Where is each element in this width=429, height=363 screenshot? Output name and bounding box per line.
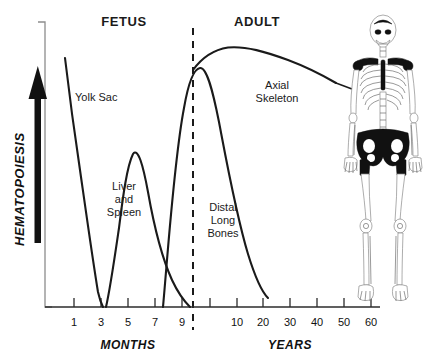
adult-skeleton-diagram [344, 15, 422, 301]
tick-label-month-7: 7 [152, 316, 158, 328]
tick-label-month-1: 1 [71, 316, 77, 328]
curve-label-axial-line-2: Skeleton [256, 92, 299, 104]
tick-label-year-30: 30 [284, 316, 296, 328]
x-axis-ticks-years [210, 298, 371, 307]
period-header-adult: ADULT [234, 14, 280, 29]
axial-skeleton-leader-line [336, 83, 352, 89]
curve-label-distal-line-1: Distal [209, 201, 237, 213]
tick-label-year-10: 10 [231, 316, 243, 328]
curve-label-liver-and-spleen: Liver and Spleen [107, 180, 141, 218]
tick-label-year-60: 60 [365, 316, 377, 328]
curve-label-distal-line-2: Long [211, 214, 235, 226]
tick-label-month-5: 5 [125, 316, 131, 328]
curve-label-distal-long-bones: Distal Long Bones [207, 201, 239, 239]
hematopoiesis-figure: FETUS ADULT HEMATOPOIESIS 1 3 5 7 9 MONT… [0, 0, 429, 363]
curve-label-axial-line-1: Axial [265, 79, 289, 91]
curve-liver-and-spleen [106, 152, 190, 307]
tick-label-month-3: 3 [98, 316, 104, 328]
curve-label-axial-skeleton: Axial Skeleton [256, 79, 299, 104]
chart-canvas: FETUS ADULT HEMATOPOIESIS 1 3 5 7 9 MONT… [0, 0, 429, 363]
curve-label-liver-line-2: and [115, 193, 133, 205]
curve-label-yolk-sac: Yolk Sac [75, 91, 118, 103]
x-axis-group-label-months: MONTHS [101, 338, 156, 352]
curve-label-distal-line-3: Bones [207, 227, 239, 239]
tick-label-year-40: 40 [311, 316, 323, 328]
tick-label-year-50: 50 [338, 316, 350, 328]
tick-label-year-20: 20 [257, 316, 269, 328]
y-axis-title: HEMATOPOIESIS [12, 132, 27, 246]
curve-label-liver-line-3: Spleen [107, 206, 141, 218]
curve-distal-long-bones [163, 68, 268, 307]
period-header-fetus: FETUS [101, 14, 147, 29]
x-axis-group-label-years: YEARS [268, 338, 312, 352]
curve-axial-skeleton [193, 47, 336, 83]
curve-label-liver-line-1: Liver [112, 180, 136, 192]
hematopoiesis-arrow-icon [29, 66, 48, 243]
x-axis-ticks-months [74, 298, 182, 307]
tick-label-month-9: 9 [179, 316, 185, 328]
